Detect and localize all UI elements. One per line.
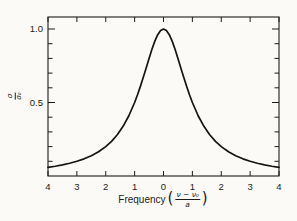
- y-axis-fraction: σ σ₀: [7, 92, 24, 99]
- lorentzian-lineshape-figure: 4321012340.51.0 Frequency ( ν − ν₀ a ) σ…: [0, 0, 297, 221]
- y-fraction-denominator: σ₀: [16, 92, 24, 99]
- x-tick-label: 4: [45, 181, 50, 192]
- y-tick-label: 1.0: [30, 23, 43, 34]
- plot-frame: [48, 17, 279, 176]
- x-tick-label: 3: [247, 181, 252, 192]
- lorentzian-curve: [48, 29, 279, 167]
- chart-canvas: 4321012340.51.0: [0, 0, 297, 221]
- x-fraction-numerator: ν − ν₀: [175, 191, 199, 200]
- x-tick-label: 2: [219, 181, 224, 192]
- x-tick-label: 3: [74, 181, 79, 192]
- x-fraction-denominator: a: [185, 200, 190, 208]
- x-tick-label: 2: [103, 181, 108, 192]
- y-tick-label: 0.5: [30, 97, 43, 108]
- open-paren: (: [168, 191, 174, 206]
- x-tick-label: 4: [276, 181, 281, 192]
- x-axis-fraction: ν − ν₀ a: [175, 191, 199, 209]
- close-paren: ): [202, 191, 208, 206]
- y-axis-label: σ σ₀: [0, 92, 23, 99]
- x-axis-label: Frequency ( ν − ν₀ a ): [118, 191, 207, 209]
- x-axis-title: Frequency: [118, 194, 165, 205]
